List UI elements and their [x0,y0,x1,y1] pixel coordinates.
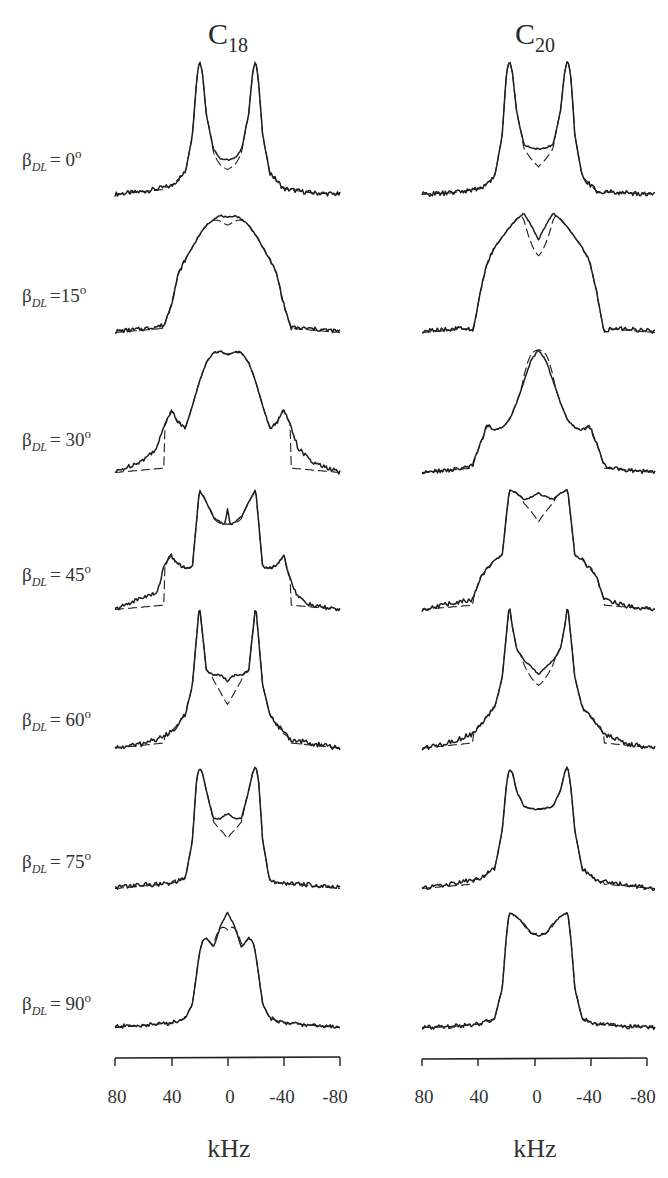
x-axis-c18: 80 40 0 -40 -80 kHz [108,1057,348,1163]
spectrum-c20-90deg [422,912,655,1029]
x-axis-unit-label: kHz [207,1134,250,1163]
spectrum-c20-45deg [422,490,655,612]
spectrum-c18-75deg [115,767,340,889]
tick-label-0: 0 [225,1086,235,1107]
simulated-curve [115,927,340,1027]
spectrum-c20-75deg [422,767,655,890]
column-title-c18: C18 [208,17,248,56]
tick-label-minus40: -40 [576,1086,601,1107]
tick-label-minus80: -80 [322,1086,347,1107]
experimental-curve [115,215,340,333]
experimental-curve [422,913,655,1030]
spectrum-c18-0deg [115,62,340,196]
row-labels: βDL= 0o βDL=15o βDL= 30o βDL= 45o βDL= 6… [22,146,91,1018]
experimental-curve [115,490,340,610]
row-label-45: βDL= 45o [22,561,91,589]
simulated-curve [422,610,655,748]
row-label-15: βDL=15o [22,282,86,310]
simulated-curve [422,350,655,473]
row-label-0: βDL= 0o [22,146,81,174]
simulated-curve [422,62,655,194]
spectrum-c20-30deg [422,350,655,474]
tick-label-0: 0 [532,1086,542,1107]
simulated-curve [422,767,655,888]
row-label-90: βDL= 90o [22,990,91,1018]
experimental-curve [115,351,340,474]
spectrum-c18-90deg [115,912,340,1028]
spectrum-c18-45deg [115,490,340,610]
tick-label-minus80: -80 [630,1086,655,1107]
spectrum-c20-0deg [422,62,655,197]
simulated-curve [115,62,340,194]
tick-label-80: 80 [415,1086,434,1107]
spectrum-c18-30deg [115,351,340,474]
experimental-curve [115,610,340,749]
experimental-curve [422,609,655,750]
simulated-curve [115,220,340,333]
experimental-curve [422,350,655,473]
spectrum-c18-60deg [115,610,340,749]
simulated-curve [115,767,340,888]
experimental-curve [115,767,340,889]
experimental-curve [115,63,340,197]
nmr-spectra-figure: C18 C20 βDL= 0o βDL=15o βDL= 30o βDL= 45… [0,0,668,1178]
experimental-curve [422,768,655,891]
tick-label-80: 80 [108,1086,127,1107]
x-axis-unit-label: kHz [513,1134,556,1163]
x-axis-c20: 80 40 0 -40 -80 kHz [415,1058,656,1163]
simulated-curve [422,912,655,1027]
spectra-column-c20 [422,62,655,1030]
experimental-curve [422,214,655,334]
experimental-curve [422,62,655,197]
experimental-curve [422,490,655,612]
spectra-column-c18 [115,62,340,1028]
spectrum-c20-60deg [422,609,655,750]
spectrum-c18-15deg [115,215,340,333]
simulated-curve [422,490,655,610]
tick-label-minus40: -40 [269,1086,294,1107]
simulated-curve [422,216,655,333]
row-label-30: βDL= 30o [22,426,91,454]
simulated-curve [115,611,340,748]
row-label-75: βDL= 75o [22,848,91,876]
tick-label-40: 40 [470,1086,489,1107]
tick-label-40: 40 [163,1086,182,1107]
column-title-c20: C20 [515,17,555,56]
row-label-60: βDL= 60o [22,706,91,734]
spectrum-c20-15deg [422,214,655,334]
